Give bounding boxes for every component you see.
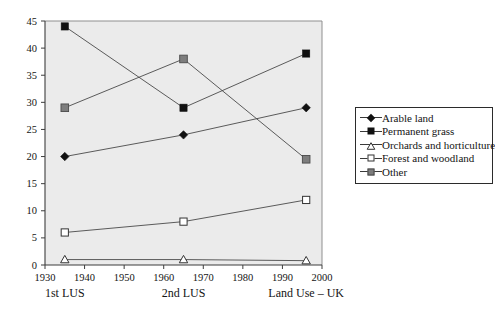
y-tick-label: 20	[15, 151, 37, 162]
chart-figure: 051015202530354045 193019401950196019701…	[0, 0, 495, 321]
legend-item-arable-land[interactable]: Arable land	[360, 111, 488, 124]
x-tick-label: 1970	[183, 272, 223, 283]
legend-item-other[interactable]: Other	[360, 165, 488, 178]
data-point-marker	[180, 218, 187, 225]
y-tick-label: 45	[15, 16, 37, 27]
data-point-marker	[302, 155, 310, 163]
y-tick-label: 40	[15, 43, 37, 54]
data-point-marker	[61, 104, 69, 112]
x-axis-ticks	[45, 265, 322, 269]
legend-item-label: Permanent grass	[382, 125, 454, 137]
x-tick-label: 1990	[262, 272, 302, 283]
legend-item-forest-and-woodland[interactable]: Forest and woodland	[360, 152, 488, 165]
data-point-marker	[61, 23, 68, 30]
gray-square-icon	[360, 166, 382, 178]
y-tick-label: 10	[15, 205, 37, 216]
y-axis-ticks	[41, 21, 45, 265]
legend-item-permanent-grass[interactable]: Permanent grass	[360, 125, 488, 138]
data-point-marker	[180, 104, 187, 111]
legend-item-label: Arable land	[382, 112, 434, 124]
chart-legend: Arable land Permanent grass Orchards and…	[355, 107, 493, 184]
legend-item-label: Forest and woodland	[382, 152, 474, 164]
data-point-marker	[180, 55, 188, 63]
x-tick-label: 1950	[104, 272, 144, 283]
axis-annotation: Land Use – UK	[246, 287, 366, 300]
filled-diamond-icon	[360, 112, 382, 124]
y-tick-label: 30	[15, 97, 37, 108]
y-tick-label: 25	[15, 124, 37, 135]
data-point-marker	[303, 196, 310, 203]
x-tick-label: 2000	[302, 272, 342, 283]
open-square-icon	[360, 152, 382, 164]
x-tick-label: 1940	[65, 272, 105, 283]
axis-annotation: 1st LUS	[5, 287, 125, 300]
x-tick-label: 1960	[144, 272, 184, 283]
data-point-marker	[303, 50, 310, 57]
legend-item-label: Orchards and horticulture	[382, 139, 495, 151]
y-tick-label: 0	[15, 260, 37, 271]
legend-item-label: Other	[382, 166, 407, 178]
axis-annotation: 2nd LUS	[124, 287, 244, 300]
y-tick-label: 15	[15, 178, 37, 189]
y-tick-label: 35	[15, 70, 37, 81]
legend-item-orchards-and-horticulture[interactable]: Orchards and horticulture	[360, 138, 488, 151]
data-point-marker	[61, 229, 68, 236]
x-tick-label: 1930	[25, 272, 65, 283]
y-tick-label: 5	[15, 232, 37, 243]
open-triangle-icon	[360, 139, 382, 151]
x-tick-label: 1980	[223, 272, 263, 283]
